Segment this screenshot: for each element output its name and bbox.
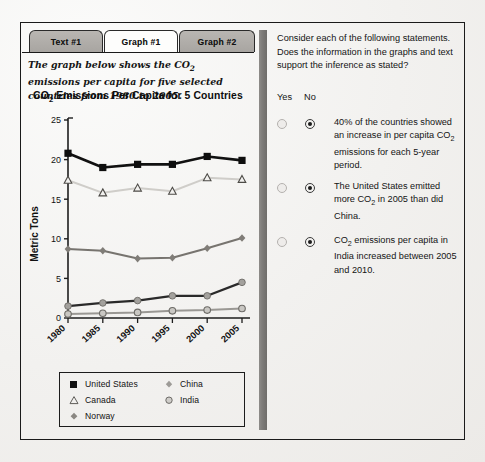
- right-panel: Consider each of the following statement…: [277, 30, 459, 430]
- tab-graph-2[interactable]: Graph #2: [179, 30, 255, 52]
- series-group: [64, 150, 246, 318]
- instruction-prompt: Consider each of the following statement…: [277, 32, 455, 73]
- legend-label-canada: Canada: [85, 395, 116, 405]
- y-axis-title: Metric Tons: [29, 206, 40, 262]
- series-india: [65, 305, 246, 317]
- chart-title-post: Emissions Per Capita for 5 Countries: [53, 90, 243, 101]
- line-chart: 0510152025 Metric Tons 19801985199019952…: [22, 106, 254, 376]
- filled-square-icon: [69, 379, 79, 389]
- statement-1-post: emissions for each 5-year period.: [334, 147, 439, 170]
- legend-label-united-states: United States: [85, 379, 138, 389]
- tab-bar: Text #1 Graph #1 Graph #2: [29, 30, 255, 53]
- statement-text-3: CO2 emissions per capita in India increa…: [334, 234, 459, 277]
- yes-column-header: Yes: [277, 92, 292, 102]
- tab-bar-divider: [22, 52, 254, 53]
- chart-title: CO2 Emissions Per Capita for 5 Countries: [22, 90, 254, 104]
- series-china: [65, 279, 246, 309]
- svg-text:1995: 1995: [149, 322, 172, 344]
- open-triangle-icon: [69, 395, 79, 405]
- radio-yes-statement-1[interactable]: [277, 119, 287, 129]
- x-axis: [68, 318, 250, 323]
- series-norway: [65, 234, 246, 262]
- tab-graph-2-label: Graph #2: [198, 37, 237, 47]
- tab-graph-1[interactable]: Graph #1: [104, 30, 178, 52]
- y-axis: 0510152025: [51, 115, 73, 323]
- statement-text-1: 40% of the countries showed an increase …: [334, 116, 459, 172]
- chart-canvas: 0510152025 Metric Tons 19801985199019952…: [22, 106, 254, 376]
- svg-text:2000: 2000: [184, 322, 207, 344]
- radio-yes-statement-3[interactable]: [277, 237, 287, 247]
- svg-text:Metric Tons: Metric Tons: [29, 206, 40, 262]
- series-united-states: [64, 150, 245, 171]
- svg-text:20: 20: [51, 155, 61, 165]
- legend-item-canada: Canada: [69, 395, 116, 405]
- legend-item-united-states: United States: [69, 379, 138, 389]
- x-tick-labels: 198019851990199520002005: [44, 322, 241, 344]
- chart-legend: United States Canada Norway China: [59, 372, 245, 427]
- radio-no-statement-1[interactable]: [305, 119, 315, 129]
- statement-text-2: The United States emitted more CO2 in 20…: [334, 180, 459, 223]
- radio-no-statement-2[interactable]: [305, 183, 315, 193]
- left-panel: Text #1 Graph #1 Graph #2 The graph belo…: [22, 24, 254, 438]
- tab-graph-1-label: Graph #1: [122, 37, 161, 47]
- svg-text:10: 10: [51, 234, 61, 244]
- statement-3-post: emissions per capita in India increased …: [334, 235, 457, 275]
- legend-item-china: China: [164, 379, 203, 389]
- legend-item-india: India: [164, 395, 199, 405]
- svg-text:1985: 1985: [79, 322, 102, 344]
- statement-1-pre: 40% of the countries showed an increase …: [334, 117, 452, 140]
- statement-3-pre: CO: [334, 235, 348, 245]
- radio-no-statement-3[interactable]: [305, 237, 315, 247]
- chart-title-pre: CO: [33, 90, 49, 101]
- page-background: Text #1 Graph #1 Graph #2 The graph belo…: [0, 0, 485, 462]
- svg-text:1980: 1980: [44, 322, 67, 344]
- statement-1-sub: 2: [450, 134, 454, 143]
- svg-text:15: 15: [51, 195, 61, 205]
- legend-item-norway: Norway: [69, 411, 115, 421]
- filled-circle-icon: [164, 379, 174, 389]
- legend-label-norway: Norway: [85, 411, 115, 421]
- svg-text:2005: 2005: [218, 322, 241, 344]
- legend-label-india: India: [180, 395, 199, 405]
- panel-divider: [259, 30, 267, 430]
- no-column-header: No: [304, 92, 316, 102]
- tab-text-1[interactable]: Text #1: [29, 30, 103, 52]
- svg-text:0: 0: [56, 313, 61, 323]
- svg-text:1990: 1990: [114, 322, 137, 344]
- tab-text-1-label: Text #1: [51, 37, 81, 47]
- series-canada: [64, 174, 246, 196]
- svg-text:5: 5: [56, 274, 61, 284]
- filled-diamond-icon: [69, 411, 79, 421]
- open-circle-icon: [164, 395, 174, 405]
- radio-yes-statement-2[interactable]: [277, 183, 287, 193]
- legend-label-china: China: [180, 379, 203, 389]
- svg-text:25: 25: [51, 115, 61, 125]
